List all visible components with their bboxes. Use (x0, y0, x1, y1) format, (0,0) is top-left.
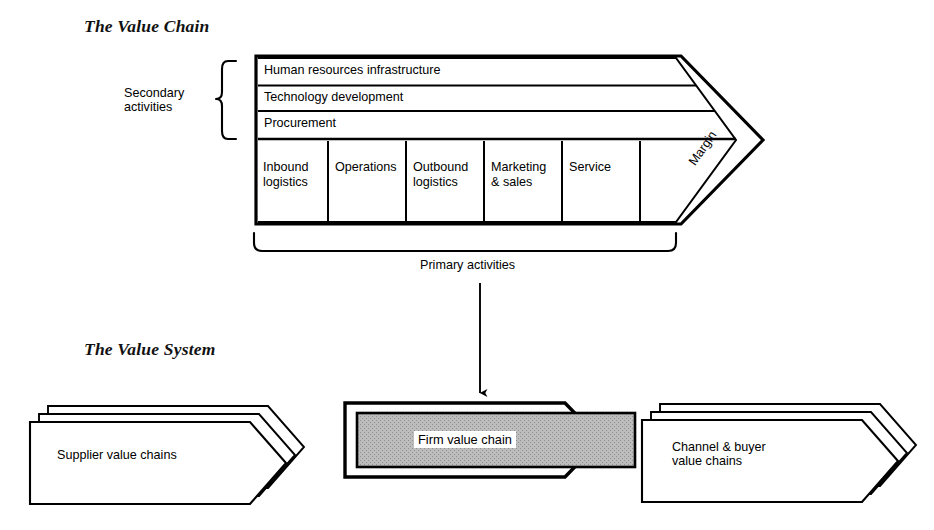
supplier-value-chains-shape[interactable] (30, 422, 286, 504)
primary-activity-service[interactable]: Service (569, 160, 611, 175)
supplier-value-chains-label: Supplier value chains (57, 448, 177, 462)
support-row-human-resources[interactable]: Human resources infrastructure (264, 63, 440, 77)
value-chain-title: The Value Chain (84, 16, 210, 37)
primary-activity-marketing-sales[interactable]: Marketing & sales (491, 160, 546, 189)
primary-activities-brace (254, 233, 676, 251)
support-row-procurement[interactable]: Procurement (264, 116, 336, 130)
secondary-activities-label: Secondary activities (124, 86, 184, 115)
firm-value-chain-label: Firm value chain (414, 431, 516, 448)
channel-buyer-value-chains-label: Channel & buyer value chains (672, 440, 766, 469)
secondary-activities-brace (216, 61, 236, 139)
support-row-technology-development[interactable]: Technology development (264, 90, 403, 104)
value-system-title: The Value System (84, 339, 216, 360)
primary-activity-outbound-logistics[interactable]: Outbound logistics (413, 160, 468, 189)
primary-activity-operations[interactable]: Operations (335, 160, 397, 175)
primary-activities-label: Primary activities (420, 258, 515, 272)
primary-activity-inbound-logistics[interactable]: Inbound logistics (263, 160, 309, 189)
diagram-canvas: The Value Chain The Value System (0, 0, 934, 530)
